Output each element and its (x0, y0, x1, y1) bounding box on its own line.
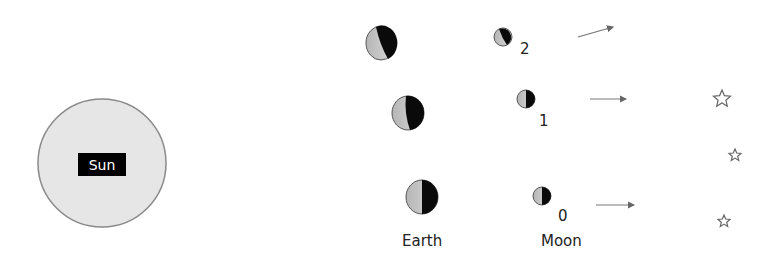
earth-position-2 (366, 26, 397, 60)
sun-label: Sun (78, 153, 126, 176)
earth-label: Earth (402, 234, 442, 249)
moon-index-0: 0 (558, 209, 568, 224)
earth-position-1 (392, 96, 424, 130)
moon-position-2 (494, 28, 512, 46)
arrow-icon (578, 27, 613, 37)
diagram-canvas (0, 0, 776, 261)
moon-index-2: 2 (520, 42, 530, 57)
moon-index-1: 1 (539, 114, 549, 129)
moon-position-1 (517, 90, 535, 108)
moon-label: Moon (541, 234, 582, 249)
earth-position-0 (406, 180, 438, 214)
star-icon (718, 215, 730, 226)
star-icon (714, 90, 731, 106)
star-icon (729, 149, 741, 160)
moon-position-0 (533, 187, 551, 205)
